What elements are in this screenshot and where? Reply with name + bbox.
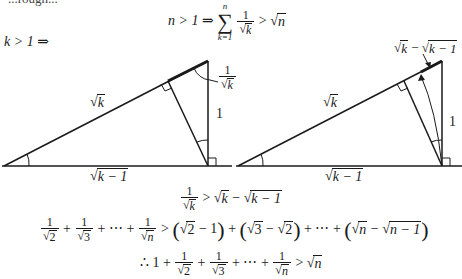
right-side-label: 1 (449, 114, 456, 130)
left-triangle (2, 61, 232, 166)
left-side-label: 1 (216, 106, 223, 122)
right-hyp-label: √k (323, 94, 338, 111)
left-hyp-label: √k (90, 94, 105, 111)
right-base-label: √k − 1 (325, 168, 363, 185)
left-base-label: √k − 1 (90, 168, 128, 185)
right-segment-label: √k − √k − 1 (394, 40, 457, 57)
right-triangle (236, 54, 462, 166)
inequality-1: 1√k > √k − √k − 1 (180, 185, 282, 212)
inequality-2-telescoping: 1√2 + 1√3 + ⋯ + 1√n > (√2 − 1) + (√3 − √… (40, 216, 429, 243)
conclusion: ∴ 1 + 1√2 + 1√3 + ⋯ + 1√n > √n (140, 250, 322, 277)
left-segment-label: 1√k (218, 64, 237, 91)
